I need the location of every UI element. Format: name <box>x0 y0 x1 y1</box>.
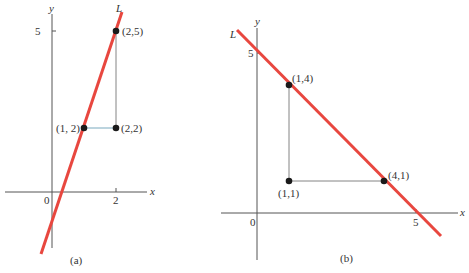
panel-b-point-label-1-1: (1,1) <box>278 187 299 200</box>
panel-b-point-label-4-1: (4,1) <box>388 169 409 182</box>
panel-a-y-label: y <box>48 2 54 14</box>
panel-a: y x L 5 0 2 (1, 2) (2,2) (2,5) (a) <box>5 2 155 267</box>
panel-a-point-label-2-2: (2,2) <box>121 122 142 135</box>
panel-a-point-2-2 <box>113 125 120 132</box>
panel-b-line-label: L <box>229 28 236 40</box>
panel-a-point-label-2-5: (2,5) <box>122 25 143 38</box>
panel-a-line-L <box>41 12 122 254</box>
panel-b-point-1-1 <box>286 178 293 185</box>
panel-b: y x L 5 0 5 (1,4) (1,1) (4,1) (b) <box>221 15 465 265</box>
panel-a-point-2-5 <box>113 28 120 35</box>
panel-a-origin-label: 0 <box>44 194 50 206</box>
panel-b-y-label: y <box>254 15 260 27</box>
panel-b-point-4-1 <box>381 178 388 185</box>
panel-b-line-L <box>237 30 441 236</box>
panel-a-point-1-2 <box>81 125 88 132</box>
panel-a-x-label: x <box>149 185 155 197</box>
panel-a-line-label: L <box>115 2 122 14</box>
panel-b-x-tick-label-5: 5 <box>413 216 419 228</box>
panel-a-y-tick-label-5: 5 <box>35 25 41 37</box>
panel-b-x-label: x <box>459 206 465 218</box>
panel-b-origin-label: 0 <box>250 216 256 228</box>
panel-a-caption: (a) <box>70 254 83 267</box>
figure: y x L 5 0 2 (1, 2) (2,2) (2,5) (a) y x L… <box>0 0 469 273</box>
panel-a-point-label-1-2: (1, 2) <box>56 122 80 135</box>
panel-b-point-label-1-4: (1,4) <box>292 72 313 85</box>
panel-a-x-tick-label-2: 2 <box>113 194 119 206</box>
panel-b-y-tick-label-5: 5 <box>248 47 254 59</box>
panel-b-caption: (b) <box>340 252 353 265</box>
